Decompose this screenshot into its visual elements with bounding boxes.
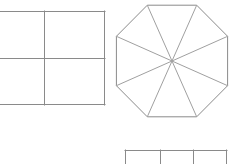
geometric-figure-canvas bbox=[0, 0, 235, 164]
canvas-background bbox=[0, 0, 235, 164]
